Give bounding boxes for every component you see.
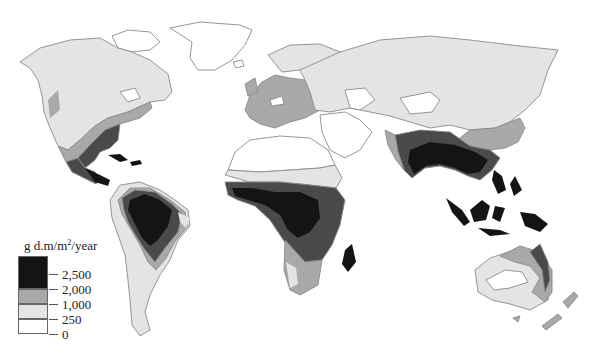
legend-unit-suffix: /year	[71, 238, 97, 253]
legend-swatch-light	[18, 304, 48, 319]
south-america	[110, 182, 190, 336]
legend-label-0: 0	[62, 328, 69, 341]
legend-label-2000: 2,000	[62, 283, 91, 296]
legend-label-2500: 2,500	[62, 268, 91, 281]
legend-unit-prefix: g d.m/m	[24, 238, 67, 253]
australia	[475, 244, 552, 322]
legend-title: g d.m/m2/year	[24, 238, 97, 254]
legend-label-1000: 1,000	[62, 298, 91, 311]
legend-tick	[49, 289, 58, 290]
legend-tick	[49, 274, 58, 275]
legend: g d.m/m2/year 2,500 2,000 1,000 250 0	[10, 238, 120, 356]
legend-swatch-dark	[18, 256, 48, 289]
indonesia	[446, 170, 548, 236]
legend-label-250: 250	[62, 313, 82, 326]
legend-swatch-mid	[18, 289, 48, 304]
legend-tick	[49, 334, 58, 335]
central-america	[66, 154, 142, 186]
asia	[300, 36, 558, 180]
africa	[225, 136, 356, 295]
legend-tick	[49, 304, 58, 305]
legend-swatch-white	[18, 319, 48, 334]
legend-tick	[49, 319, 58, 320]
north-america	[20, 38, 172, 168]
